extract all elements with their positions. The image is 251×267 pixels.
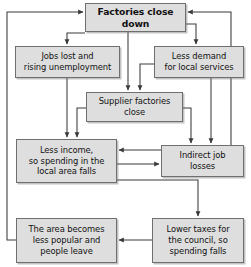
edge-supplier-to-indirect [183, 108, 191, 143]
flowchart-diagram: Factories close downJobs lost and rising… [0, 0, 251, 267]
edge-indirect-to-factories [188, 12, 231, 145]
edge-supplier-to-less-income [77, 108, 86, 137]
node-label-area-becomes-less-popular: The area becomes less popular and people… [29, 224, 105, 256]
node-label-indirect-job-losses: Indirect job losses [180, 150, 226, 172]
node-label-less-demand-local-services: Less demand for local services [165, 51, 234, 73]
node-indirect-job-losses: Indirect job losses [161, 145, 244, 177]
node-label-lower-taxes-council: Lower taxes for the council, so spending… [166, 224, 229, 256]
node-label-supplier-factories-close: Supplier factories close [99, 96, 171, 118]
node-lower-taxes-council: Lower taxes for the council, so spending… [152, 218, 244, 263]
node-less-demand-local-services: Less demand for local services [154, 46, 244, 78]
edge-factories-to-jobs-lost [67, 33, 85, 44]
edge-less-demand-to-supplier [140, 64, 154, 90]
edge-less-income-to-lower-taxes [117, 180, 198, 216]
node-area-becomes-less-popular: The area becomes less popular and people… [16, 218, 117, 263]
node-label-jobs-lost-rising-unemployment: Jobs lost and rising unemployment [24, 51, 111, 73]
node-jobs-lost-rising-unemployment: Jobs lost and rising unemployment [15, 46, 120, 78]
node-less-income-spending-falls: Less income, so spending in the local ar… [16, 139, 117, 183]
node-label-factories-close-down: Factories close down [98, 6, 174, 30]
node-label-less-income-spending-falls: Less income, so spending in the local ar… [29, 145, 104, 177]
node-factories-close-down: Factories close down [85, 3, 186, 32]
node-supplier-factories-close: Supplier factories close [86, 92, 183, 122]
edge-factories-to-less-demand [186, 24, 196, 44]
